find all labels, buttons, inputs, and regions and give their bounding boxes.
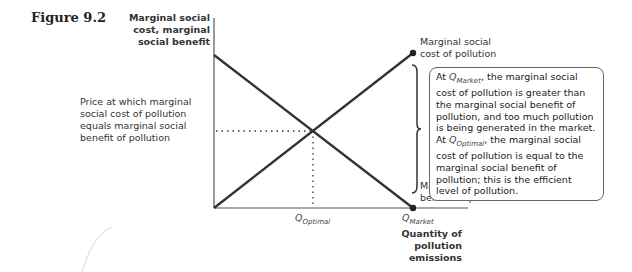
figure-label: Figure 9.2 — [31, 10, 106, 25]
q-subscript: Market — [409, 218, 433, 226]
callout-text: At — [436, 71, 449, 82]
x-axis-label: Quantity of pollution emissions — [380, 228, 462, 264]
q-symbol: Q — [449, 71, 456, 82]
price-annotation: Price at which marginal social cost of p… — [80, 96, 200, 144]
msb-endpoint — [410, 205, 416, 211]
q-optimal-tick: QOptimal — [295, 212, 330, 226]
q-symbol: Q — [449, 134, 456, 145]
q-subscript: Optimal — [302, 218, 330, 226]
y-axis-label: Marginal social cost, marginal social be… — [100, 12, 210, 48]
callout-box: At QMarket, the marginal social cost of … — [429, 67, 604, 201]
q-market-ref: QMarket — [449, 71, 481, 82]
q-optimal-ref: QOptimal — [449, 134, 484, 145]
q-subscript: Optimal — [457, 140, 485, 148]
bracket-icon — [412, 65, 421, 193]
msc-endpoint — [410, 50, 416, 56]
q-subscript: Market — [457, 77, 481, 85]
q-market-tick: QMarket — [402, 212, 434, 226]
decorative-curve — [82, 227, 112, 272]
msc-label: Marginal social cost of pollution — [420, 36, 510, 60]
